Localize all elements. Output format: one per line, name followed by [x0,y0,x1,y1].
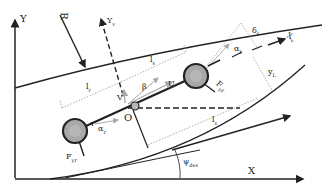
rear-wheel [63,119,87,143]
vehicle-y-label: Yv [107,17,115,27]
lr-label: lr [86,83,91,93]
global-y-label: Y [20,14,27,24]
radius-label: R [59,12,69,20]
yl-label: yL [268,68,276,78]
psi-des-label: ψdes [183,158,198,168]
delta-f-label: δf [252,27,259,37]
v-label: V [117,94,123,102]
vehicle-y-axis [101,19,123,95]
radius-arrow [60,15,85,67]
ls-label: ls [212,116,217,126]
u-label: U [168,80,175,88]
alpha-f-label: αf [234,45,241,55]
global-x-label: X [248,166,255,176]
desired-heading-arrow [172,116,290,150]
alpha-r-label: αr [98,125,106,135]
vehicle-model-diagram [0,0,322,193]
front-wheel [184,64,208,88]
center-of-gravity [131,102,139,110]
fyr-label: Fyr [66,153,77,163]
v-velocity-arrow [124,90,125,103]
ls-dimension-line [148,98,258,145]
origin-label: O [124,113,132,123]
vehicle-x-axis [268,39,285,45]
lr-dimension-line [62,82,121,108]
lf-label: ls [150,56,155,66]
beta-label: β [142,83,147,91]
